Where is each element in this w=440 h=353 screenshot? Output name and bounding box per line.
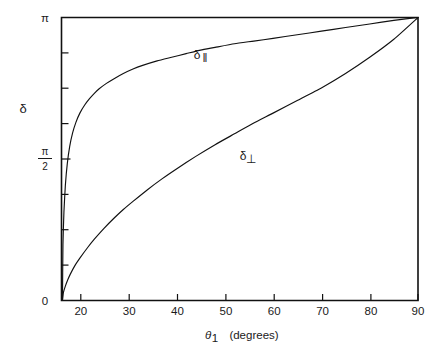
phase-shift-chart: 20 30 40 50 60 70 80 90 π π 2 0 δ θ 1 (d… <box>0 0 440 353</box>
y-tick-label-zero: 0 <box>42 295 48 307</box>
x-axis-title-subscript: 1 <box>212 332 218 344</box>
y-tick-label-pi-over-2-denominator: 2 <box>42 161 48 172</box>
x-tick-label: 50 <box>220 305 233 317</box>
annotation-delta-perpendicular: δ ⊥ <box>240 149 256 166</box>
x-tick-labels: 20 30 40 50 60 70 80 90 <box>74 305 424 317</box>
y-axis-title: δ <box>19 101 26 116</box>
x-tick-label: 80 <box>365 305 378 317</box>
annotation-delta-perp-subscript: ⊥ <box>246 152 256 166</box>
annotation-delta-parallel-symbol: δ <box>194 48 201 62</box>
y-tick-label-pi: π <box>41 12 49 24</box>
x-axis-title-units: (degrees) <box>229 329 278 341</box>
x-tick-label: 30 <box>123 305 136 317</box>
y-tick-labels: π π 2 0 <box>38 12 52 308</box>
x-tick-label: 40 <box>171 305 184 317</box>
x-tick-label: 60 <box>268 305 281 317</box>
x-tick-label: 70 <box>316 305 329 317</box>
x-axis-ticks <box>81 294 418 301</box>
x-tick-label: 90 <box>412 305 425 317</box>
x-axis-title: θ 1 (degrees) <box>205 329 279 344</box>
figure-container: 20 30 40 50 60 70 80 90 π π 2 0 δ θ 1 (d… <box>0 0 440 353</box>
x-tick-label: 20 <box>74 305 87 317</box>
y-tick-label-pi-over-2-numerator: π <box>42 146 49 157</box>
annotation-delta-parallel-subscript: ‖ <box>203 51 208 65</box>
